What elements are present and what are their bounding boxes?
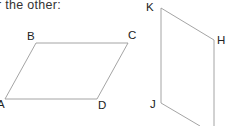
parallelogram-khj — [161, 8, 214, 126]
vertex-label-j: J — [150, 99, 156, 111]
vertex-label-h: H — [217, 35, 225, 47]
parallelogram-khj-bottom-edge — [161, 103, 200, 126]
parallelogram-abcd — [5, 43, 128, 99]
vertex-label-c: C — [128, 30, 136, 42]
vertex-label-a: A — [0, 99, 5, 111]
vertex-label-b: B — [27, 31, 35, 43]
vertex-label-d: D — [98, 100, 106, 112]
vertex-label-k: K — [146, 2, 154, 14]
geometry-figures — [0, 0, 228, 126]
